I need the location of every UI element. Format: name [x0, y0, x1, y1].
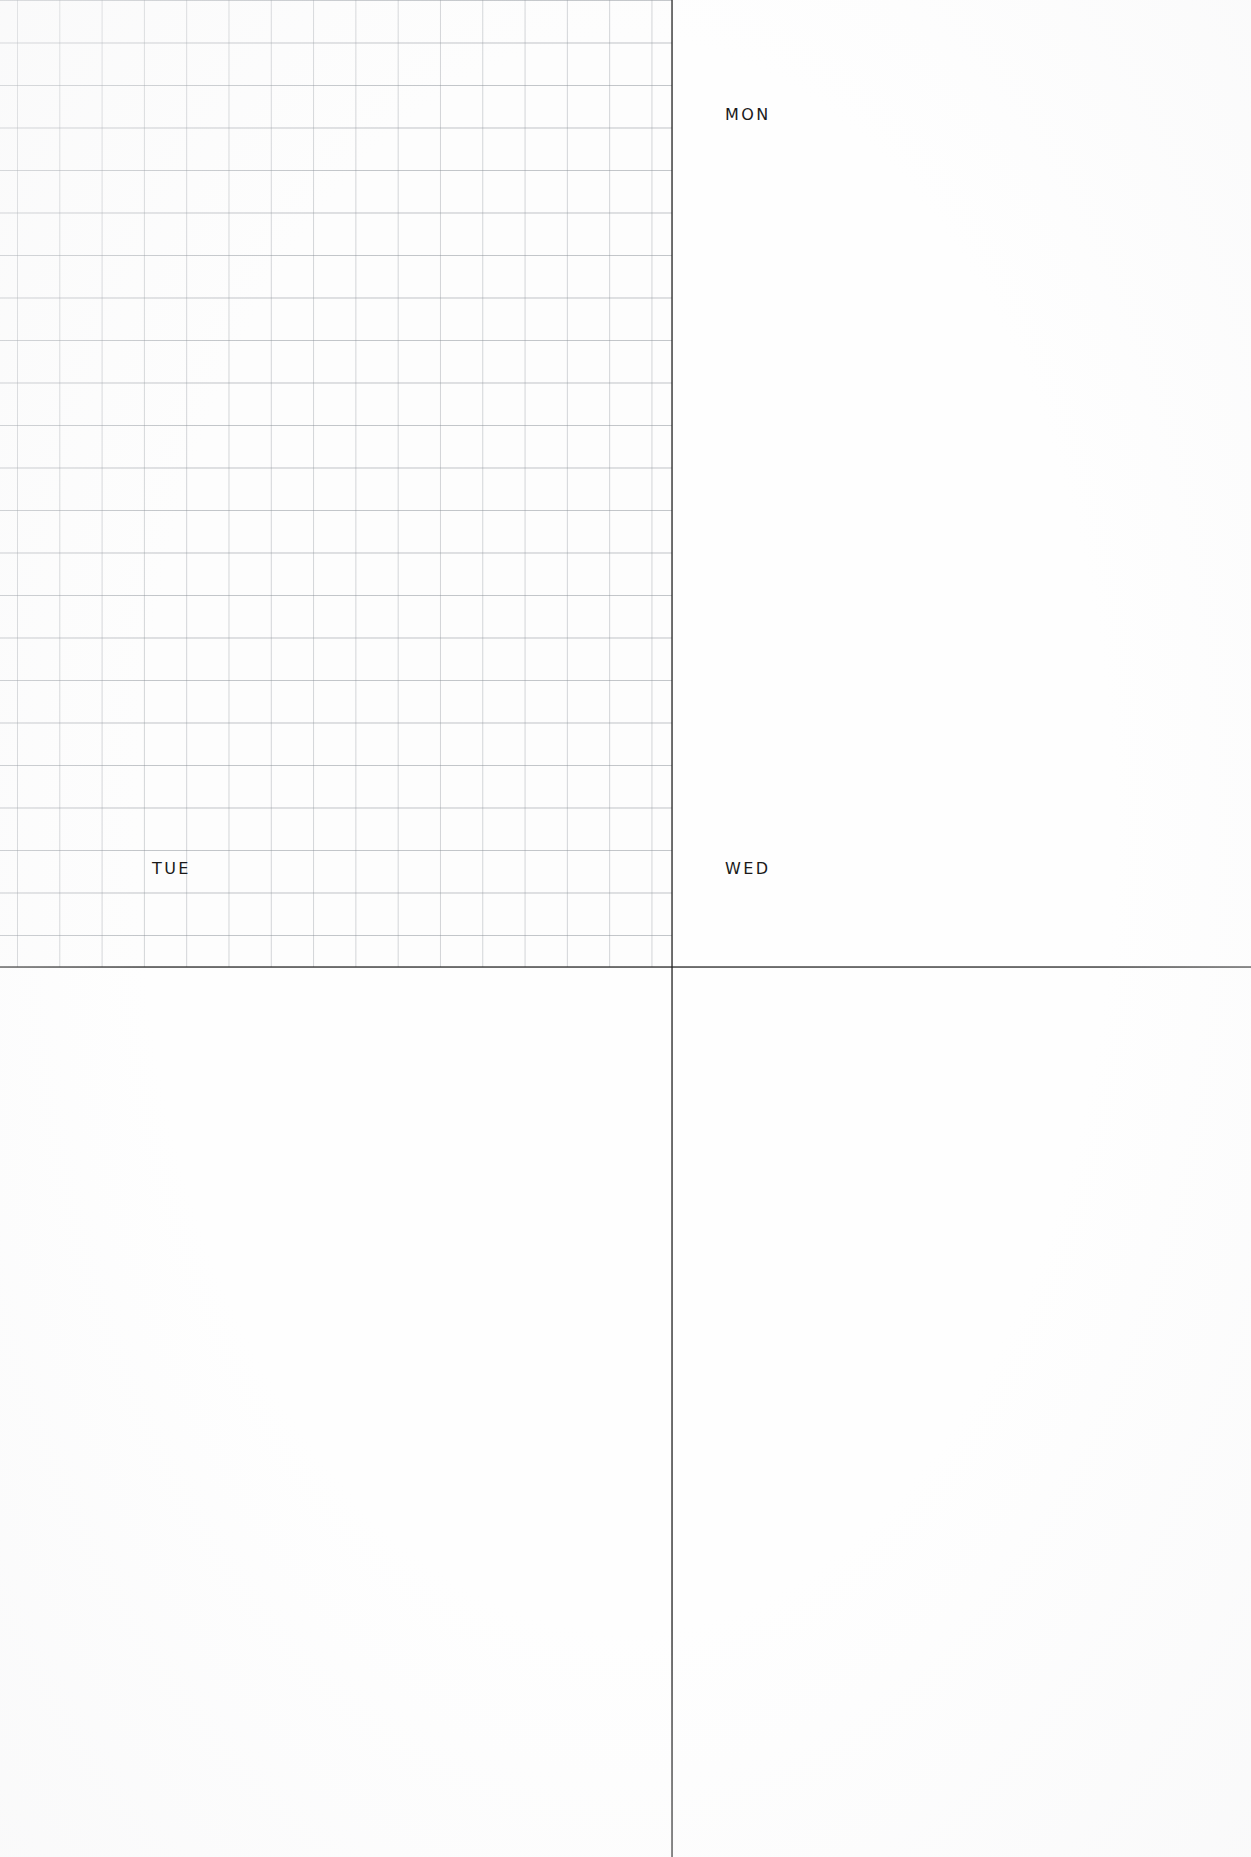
tuesday-writing-area[interactable] [0, 968, 672, 1857]
quadrant-tuesday [0, 968, 672, 1857]
monday-writing-area[interactable] [673, 0, 1251, 967]
quadrant-grid-paper [0, 0, 672, 967]
divider-vertical [671, 0, 673, 1857]
wednesday-writing-area[interactable] [673, 968, 1251, 1857]
day-label-tuesday: TUE [152, 861, 191, 877]
quadrant-monday [673, 0, 1251, 967]
quadrant-wednesday [673, 968, 1251, 1857]
planner-page: MON TUE WED [0, 0, 1251, 1857]
grid-writing-area[interactable] [0, 0, 672, 967]
divider-horizontal [0, 966, 1251, 968]
day-label-wednesday: WED [725, 861, 770, 877]
day-label-monday: MON [725, 107, 771, 123]
